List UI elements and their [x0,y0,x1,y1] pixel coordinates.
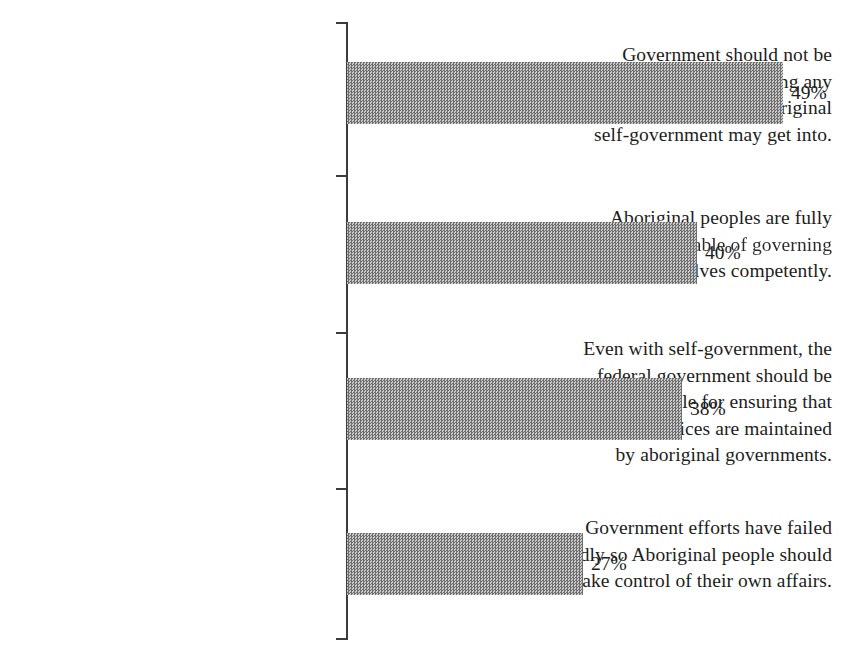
bar-value-2: 38% [690,398,726,420]
category-label-2-line-0: Even with self-government, the [501,336,832,363]
bar-value-0: 49% [791,82,827,104]
bar-value-3: 27% [591,553,627,575]
axis-tick-1 [336,175,347,177]
bar-value-1: 40% [705,242,741,264]
bar-chart: Government should not be responsible for… [0,0,848,657]
bar-0 [347,62,783,124]
axis-tick-2 [336,332,347,334]
bar-3 [347,533,583,595]
bar-2 [347,378,682,440]
category-label-2-line-4: by aboriginal governments. [501,442,832,469]
bar-1 [347,222,697,284]
axis-tick-0 [336,22,347,24]
axis-tick-4 [336,638,347,640]
axis-tick-3 [336,488,347,490]
category-label-0-line-3: self-government may get into. [501,122,832,149]
